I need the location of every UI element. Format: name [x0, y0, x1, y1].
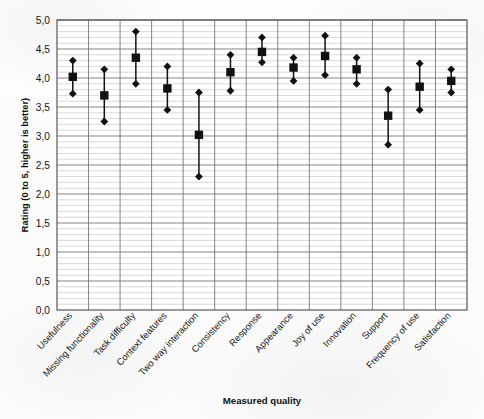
mean-marker — [195, 131, 203, 139]
x-tick-label-text: Support — [359, 310, 390, 342]
mean-marker — [384, 112, 392, 120]
y-tick-label: 1,5 — [36, 218, 50, 229]
mean-marker — [226, 68, 234, 76]
y-tick-label: 3,0 — [36, 131, 50, 142]
mean-marker — [258, 48, 266, 56]
mean-marker — [447, 77, 455, 85]
x-tick-label: Innovation — [321, 310, 359, 349]
mean-marker — [321, 52, 329, 60]
y-tick-label: 0,0 — [36, 305, 50, 316]
mean-marker — [163, 84, 171, 92]
y-tick-label: 3,5 — [36, 102, 50, 113]
mean-marker — [352, 65, 360, 73]
data-point-group — [447, 65, 455, 96]
mean-marker — [289, 63, 297, 71]
y-axis-title: Rating (0 to 5, higher is better) — [20, 98, 30, 232]
chart-canvas: Rating (0 to 5, higher is better) Measur… — [0, 0, 484, 419]
mean-marker — [100, 91, 108, 99]
x-axis-title: Measured quality — [223, 395, 302, 406]
x-tick-label: Support — [359, 310, 390, 342]
y-tick-label: 0,5 — [36, 276, 50, 287]
x-axis-title-text: Measured quality — [223, 395, 302, 406]
mean-marker — [415, 83, 423, 91]
y-tick-label: 1,0 — [36, 247, 50, 258]
x-tick-label-text: Two way interaction — [136, 310, 200, 378]
chart-figure: Rating (0 to 5, higher is better) Measur… — [0, 0, 484, 419]
y-tick-label: 5,0 — [36, 15, 50, 26]
y-tick-label: 4,0 — [36, 73, 50, 84]
y-axis-ticks: 0,00,51,01,52,02,53,03,54,04,55,0 — [36, 15, 50, 316]
x-tick-label-text: Innovation — [321, 310, 359, 349]
x-axis-ticks: UsefulnessMissing functionalityTask diff… — [35, 310, 453, 379]
y-tick-label: 2,5 — [36, 160, 50, 171]
y-tick-label: 2,0 — [36, 189, 50, 200]
y-axis-title-text: Rating (0 to 5, higher is better) — [20, 98, 30, 232]
y-tick-label: 4,5 — [36, 44, 50, 55]
data-point-group — [289, 54, 297, 85]
mean-marker — [69, 73, 77, 81]
mean-marker — [132, 54, 140, 62]
x-tick-label: Two way interaction — [136, 310, 200, 378]
